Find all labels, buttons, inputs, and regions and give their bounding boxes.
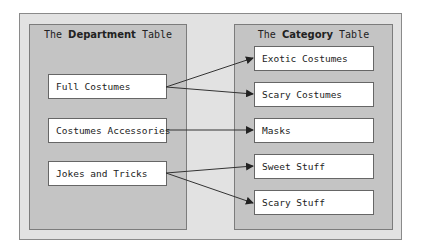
department-item-jokes-and-tricks: Jokes and Tricks (48, 161, 167, 186)
department-item-full-costumes: Full Costumes (48, 74, 167, 99)
category-item-exotic-costumes: Exotic Costumes (254, 46, 374, 71)
title-prefix: The (258, 29, 282, 40)
category-item-scary-stuff: Scary Stuff (254, 190, 374, 215)
title-suffix: Table (136, 29, 172, 40)
title-prefix: The (44, 29, 68, 40)
title-bold: Category (282, 29, 333, 40)
department-item-costumes-accessories: Costumes Accessories (48, 118, 167, 143)
category-table-title: The Category Table (234, 29, 393, 40)
department-table-title: The Department Table (29, 29, 187, 40)
category-item-scary-costumes: Scary Costumes (254, 82, 374, 107)
title-suffix: Table (333, 29, 369, 40)
category-item-masks: Masks (254, 118, 374, 143)
category-item-sweet-stuff: Sweet Stuff (254, 154, 374, 179)
title-bold: Department (68, 29, 136, 40)
